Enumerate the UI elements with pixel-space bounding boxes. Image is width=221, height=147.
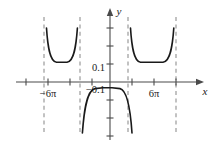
y-tick-label-negative: −0.1 xyxy=(86,84,105,95)
y-axis-name-label: y xyxy=(116,5,122,17)
graph-figure: −6π 6π 0.1 −0.1 x y xyxy=(0,0,221,147)
x-tick-label-left: −6π xyxy=(40,88,57,99)
y-tick-label-positive: 0.1 xyxy=(92,62,105,73)
plot-canvas: −6π 6π 0.1 −0.1 x y xyxy=(0,0,221,147)
x-axis-name-label: x xyxy=(202,85,208,97)
x-tick-label-right: 6π xyxy=(149,88,160,99)
